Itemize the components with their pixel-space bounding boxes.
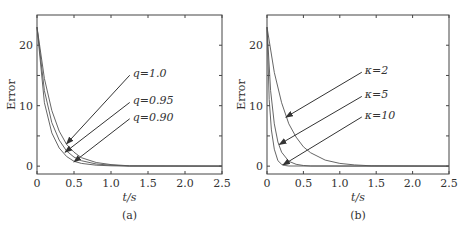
- series-line-2: [267, 27, 449, 166]
- x-tick-label: 1.5: [139, 177, 157, 190]
- figure: 00.51.01.52.02.501020t/sError(a)q=1.0q=0…: [0, 0, 463, 225]
- annotation-arrow: [283, 117, 362, 165]
- x-tick-label: 1.0: [331, 177, 349, 190]
- series-line-1: [37, 27, 222, 166]
- x-tick-label: 2.0: [176, 177, 194, 190]
- plot-frame: [37, 15, 222, 174]
- annotation-label: q=0.95: [133, 94, 174, 107]
- y-tick-label: 20: [249, 39, 263, 52]
- y-tick-label: 10: [249, 100, 263, 113]
- x-tick-label: 2.5: [440, 177, 458, 190]
- plot-frame: [267, 15, 449, 174]
- annotation-arrow: [74, 119, 130, 162]
- series-line-0: [267, 27, 449, 166]
- x-tick-label: 0: [264, 177, 271, 190]
- series-line-1: [267, 27, 449, 166]
- x-tick-label: 0.5: [65, 177, 83, 190]
- annotation-arrow: [286, 72, 362, 117]
- annotation-label: κ=5: [364, 88, 388, 101]
- chart-panel-b: 00.51.01.52.02.501020t/sError(b)κ=2κ=5κ=…: [235, 15, 458, 222]
- x-tick-label: 1.5: [367, 177, 385, 190]
- annotation-label: κ=2: [364, 64, 388, 77]
- x-tick-label: 2.5: [213, 177, 231, 190]
- y-tick-label: 20: [19, 39, 33, 52]
- y-tick-label: 0: [256, 160, 263, 173]
- panel-caption: (b): [350, 209, 366, 222]
- annotation-arrow: [279, 96, 361, 144]
- y-tick-label: 10: [19, 100, 33, 113]
- annotation-label: q=0.90: [133, 111, 174, 124]
- panel-caption: (a): [122, 209, 137, 222]
- x-tick-label: 1.0: [102, 177, 120, 190]
- series-line-2: [37, 27, 222, 166]
- y-tick-label: 0: [26, 160, 33, 173]
- x-axis-label: t/s: [351, 191, 365, 204]
- x-tick-label: 0: [34, 177, 41, 190]
- x-axis-label: t/s: [123, 191, 137, 204]
- chart-panel-a: 00.51.01.52.02.501020t/sError(a)q=1.0q=0…: [5, 15, 231, 222]
- annotation-label: κ=10: [364, 109, 395, 122]
- x-tick-label: 0.5: [295, 177, 313, 190]
- y-axis-label: Error: [5, 79, 18, 110]
- x-tick-label: 2.0: [404, 177, 422, 190]
- y-axis-label: Error: [235, 79, 248, 110]
- series-line-0: [37, 27, 222, 166]
- annotation-label: q=1.0: [133, 67, 167, 80]
